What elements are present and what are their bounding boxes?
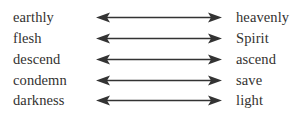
diagram-row: condemn save bbox=[0, 70, 306, 91]
left-term: earthly bbox=[13, 7, 54, 28]
right-term: heavenly bbox=[236, 7, 289, 28]
right-term: ascend bbox=[236, 49, 276, 70]
double-headed-arrow-icon bbox=[96, 49, 222, 70]
diagram-row: darkness light bbox=[0, 90, 306, 111]
diagram-row: flesh Spirit bbox=[0, 28, 306, 49]
left-term: darkness bbox=[13, 90, 65, 111]
diagram-row: descend ascend bbox=[0, 49, 306, 70]
left-term: flesh bbox=[13, 28, 42, 49]
double-headed-arrow-icon bbox=[96, 28, 222, 49]
left-term: condemn bbox=[13, 70, 67, 91]
double-headed-arrow-icon bbox=[96, 7, 222, 28]
left-term: descend bbox=[13, 49, 60, 70]
double-headed-arrow-icon bbox=[96, 70, 222, 91]
opposites-diagram: earthly heavenly flesh Spirit descend bbox=[0, 0, 306, 113]
double-headed-arrow-icon bbox=[96, 90, 222, 111]
right-term: save bbox=[236, 70, 262, 91]
right-term: Spirit bbox=[236, 28, 269, 49]
diagram-row: earthly heavenly bbox=[0, 7, 306, 28]
right-term: light bbox=[236, 90, 263, 111]
